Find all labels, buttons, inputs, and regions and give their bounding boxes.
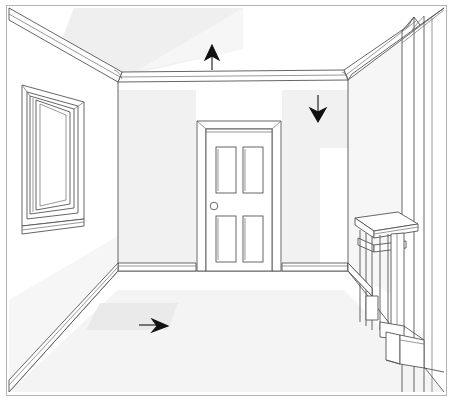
room-line-drawing-canvas: .ln { fill:none; stroke:#555; stroke-wid… <box>0 0 453 401</box>
plinth-block-face <box>386 332 400 364</box>
back-wall-shade-right <box>282 90 348 148</box>
door-panel-bottom-right <box>243 216 263 262</box>
newel-post <box>391 233 404 331</box>
window-glass <box>40 104 66 206</box>
door-knob-icon[interactable] <box>210 202 218 210</box>
door-panel-top-left <box>216 147 236 193</box>
door-panel-top-right <box>243 147 263 193</box>
back-wall-shade <box>118 90 196 271</box>
room-perspective-illustration: .ln { fill:none; stroke:#555; stroke-wid… <box>0 0 453 401</box>
baseboard-back-right <box>282 263 348 271</box>
baseboard-back-left <box>118 263 196 271</box>
door-assembly[interactable] <box>197 121 281 271</box>
door-panel-bottom-left <box>216 216 236 262</box>
back-wall-shade-right-lower <box>282 148 320 271</box>
railing-skirt-block <box>366 296 378 320</box>
plinth-block-lower-right <box>400 335 424 368</box>
left-wall-window[interactable] <box>22 85 84 234</box>
